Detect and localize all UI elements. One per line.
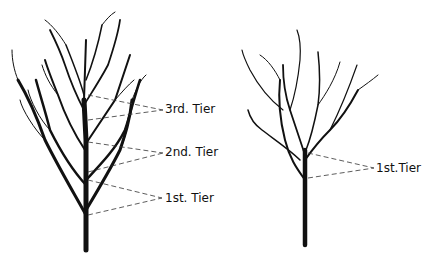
left-tier-2-label: 2nd. Tier — [165, 146, 218, 158]
left-tree-leaders — [88, 95, 163, 215]
right-tree — [242, 30, 378, 245]
tree-diagram — [0, 0, 438, 259]
left-tier-3-label: 3rd. Tier — [165, 103, 215, 115]
left-tier-1-label: 1st. Tier — [165, 192, 214, 204]
left-tree — [12, 12, 146, 250]
right-tree-leaders — [308, 153, 374, 178]
right-tier-1-label: 1st.Tier — [376, 162, 421, 174]
